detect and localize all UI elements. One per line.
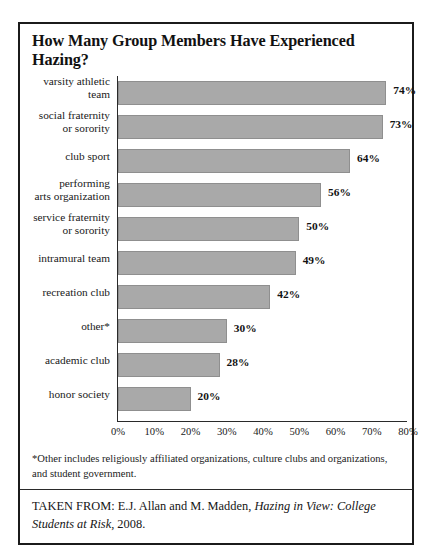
bar-row: recreation club42% bbox=[20, 282, 412, 316]
bar-row: performingarts organization56% bbox=[20, 180, 412, 214]
bar bbox=[118, 115, 383, 139]
x-axis-tick-label: 10% bbox=[134, 426, 174, 437]
source-suffix: , 2008. bbox=[111, 517, 145, 531]
bar-row: club sport64% bbox=[20, 146, 412, 180]
bar-category-label: social fraternityor sorority bbox=[18, 109, 110, 134]
x-axis-tick-label: 80% bbox=[388, 426, 428, 437]
bar-value-label: 42% bbox=[277, 288, 300, 300]
bar-category-label: other* bbox=[18, 320, 110, 333]
bar-row: service fraternityor sorority50% bbox=[20, 214, 412, 248]
bar-category-label: honor society bbox=[18, 388, 110, 401]
x-axis-tick-label: 40% bbox=[243, 426, 283, 437]
bar-category-label: varsity athleticteam bbox=[18, 75, 110, 100]
bar bbox=[118, 217, 299, 241]
bar-row: intramural team49% bbox=[20, 248, 412, 282]
bar-category-label: service fraternityor sorority bbox=[18, 211, 110, 236]
bar-row: other*30% bbox=[20, 316, 412, 350]
bar-value-label: 50% bbox=[306, 220, 329, 232]
bar bbox=[118, 285, 270, 309]
chart-plot-area: varsity athleticteam74%social fraternity… bbox=[20, 76, 412, 436]
x-axis-tick-label: 70% bbox=[352, 426, 392, 437]
bar-value-label: 74% bbox=[393, 84, 416, 96]
x-axis-tick-label: 30% bbox=[207, 426, 247, 437]
figure-frame: How Many Group Members Have Experienced … bbox=[18, 22, 414, 545]
bar bbox=[118, 251, 296, 275]
chart-footnote: *Other includes religiously affiliated o… bbox=[32, 452, 404, 481]
bar-category-label: performingarts organization bbox=[18, 177, 110, 202]
bar-value-label: 28% bbox=[227, 356, 250, 368]
bar-value-label: 30% bbox=[234, 322, 257, 334]
x-axis-tick-label: 0% bbox=[98, 426, 138, 437]
bar bbox=[118, 149, 350, 173]
bar-row: varsity athleticteam74% bbox=[20, 78, 412, 112]
bar bbox=[118, 353, 220, 377]
bar-row: academic club28% bbox=[20, 350, 412, 384]
bar-row: social fraternityor sorority73% bbox=[20, 112, 412, 146]
bar-value-label: 56% bbox=[328, 186, 351, 198]
bar-value-label: 20% bbox=[198, 390, 221, 402]
x-axis-tick-label: 60% bbox=[316, 426, 356, 437]
bar-value-label: 64% bbox=[357, 152, 380, 164]
bar bbox=[118, 81, 386, 105]
source-citation: TAKEN FROM: E.J. Allan and M. Madden, Ha… bbox=[32, 498, 404, 533]
bar-row: honor society20% bbox=[20, 384, 412, 418]
bar-category-label: academic club bbox=[18, 354, 110, 367]
bar bbox=[118, 183, 321, 207]
bar-category-label: recreation club bbox=[18, 286, 110, 299]
x-axis-tick-label: 50% bbox=[279, 426, 319, 437]
x-axis-tick-label: 20% bbox=[171, 426, 211, 437]
bar-value-label: 49% bbox=[303, 254, 326, 266]
x-axis-line bbox=[117, 421, 407, 422]
source-divider bbox=[20, 489, 412, 490]
x-axis-tick-labels: 0%10%20%30%40%50%60%70%80% bbox=[117, 426, 409, 444]
bar-category-label: club sport bbox=[18, 150, 110, 163]
source-prefix: TAKEN FROM: E.J. Allan and M. Madden, bbox=[32, 499, 254, 513]
bar-value-label: 73% bbox=[390, 118, 413, 130]
bar bbox=[118, 319, 227, 343]
bar bbox=[118, 387, 191, 411]
bar-category-label: intramural team bbox=[18, 252, 110, 265]
chart-title: How Many Group Members Have Experienced … bbox=[32, 32, 404, 71]
